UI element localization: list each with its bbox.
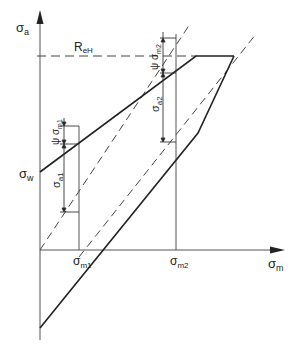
y-axis	[37, 10, 44, 340]
dashed-line-origin	[40, 24, 190, 250]
sigma-a2-label: σa2	[149, 96, 164, 112]
x-axis-arrow-icon	[270, 247, 285, 254]
upper-limit-line	[40, 56, 234, 172]
haigh-diagram: σa σm ReH σw σm1 σm2 σa1 ψ σm1 σa2 ψ σm2	[0, 0, 301, 355]
x-axis	[40, 247, 285, 254]
y-axis-label: σa	[16, 20, 29, 37]
lower-limit-line	[40, 56, 234, 328]
y-axis-arrow-icon	[37, 10, 44, 24]
x-axis-label: σm	[268, 256, 284, 273]
sigma-m1-label: σm1	[73, 254, 92, 270]
dim-sigma-m1	[60, 118, 79, 212]
sigma-w-label: σw	[19, 166, 34, 183]
psi-m2-label: ψ σm2	[149, 44, 162, 70]
sigma-m2-label: σm2	[170, 254, 189, 270]
sigma-a1-label: σa1	[50, 172, 65, 188]
reh-label: ReH	[74, 40, 93, 55]
psi-m1-label: ψ σm1	[50, 119, 63, 145]
